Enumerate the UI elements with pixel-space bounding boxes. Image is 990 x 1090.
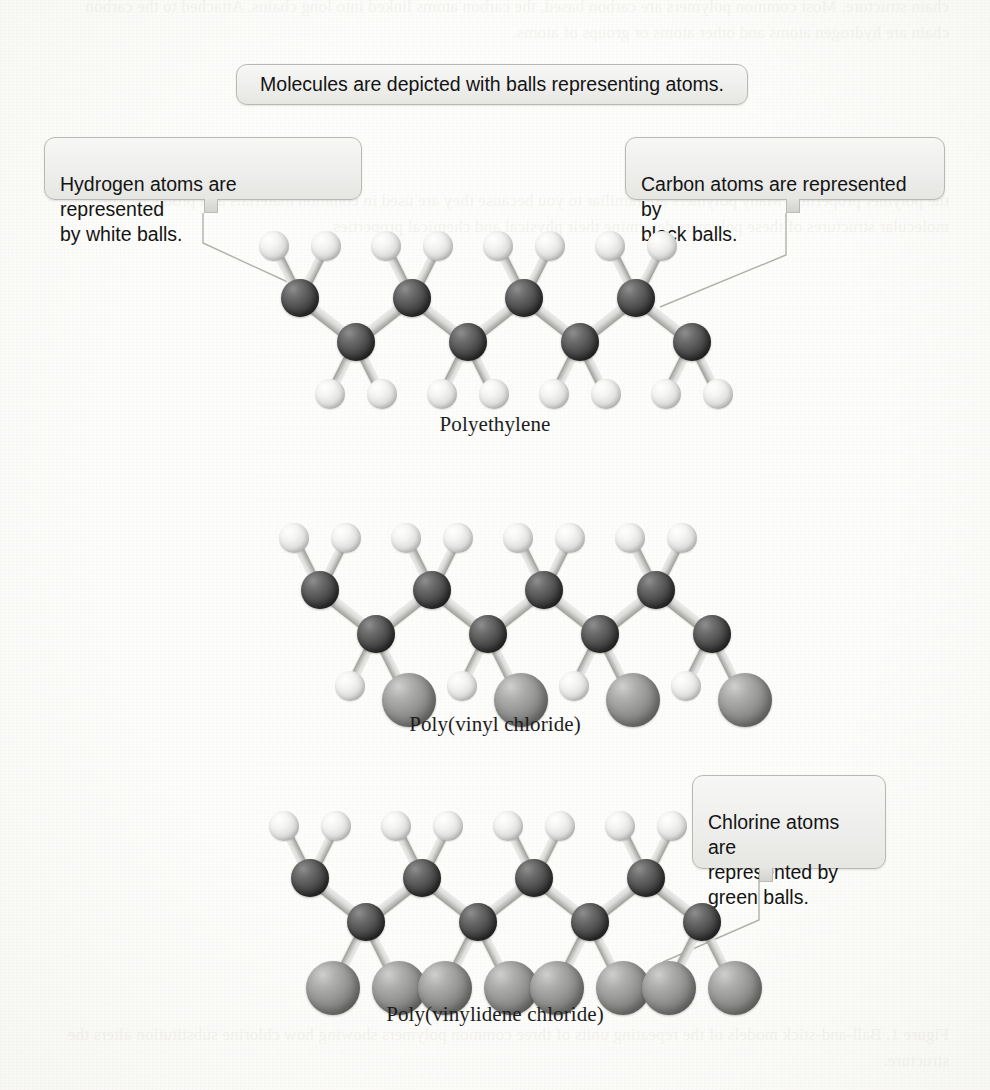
carbon-atom: [673, 323, 711, 361]
carbon-atom: [347, 903, 385, 941]
carbon-atom: [617, 279, 655, 317]
carbon-atom: [627, 859, 665, 897]
hydrogen-atom: [483, 231, 513, 261]
hydrogen-atom: [545, 811, 575, 841]
carbon-atom: [337, 323, 375, 361]
hydrogen-atom: [321, 811, 351, 841]
hydrogen-atom: [605, 811, 635, 841]
molecule-poly-vinylidene-chloride: [272, 818, 702, 1003]
callout-carbon: Carbon atoms are represented by black ba…: [625, 137, 945, 200]
figure-stage: Molecules are depicted with balls repres…: [0, 0, 990, 1090]
hydrogen-atom: [331, 523, 361, 553]
hydrogen-atom: [503, 523, 533, 553]
hydrogen-atom: [381, 811, 411, 841]
molecule-poly-vinyl-chloride: [282, 528, 702, 708]
callout-molecules: Molecules are depicted with balls repres…: [236, 64, 748, 105]
carbon-atom: [301, 571, 339, 609]
callout-tail-icon: [786, 199, 800, 213]
carbon-atom: [693, 615, 731, 653]
caption-poly-vinyl-chloride: Poly(vinyl chloride): [290, 712, 700, 737]
callout-hydrogen: Hydrogen atoms are represented by white …: [44, 137, 362, 200]
carbon-atom: [291, 859, 329, 897]
hydrogen-atom: [269, 811, 299, 841]
hydrogen-atom: [539, 379, 569, 409]
caption-poly-vinylidene-chloride: Poly(vinylidene chloride): [270, 1002, 720, 1027]
carbon-atom: [525, 571, 563, 609]
callout-tail-icon: [204, 199, 218, 213]
carbon-atom: [469, 615, 507, 653]
hydrogen-atom: [591, 379, 621, 409]
hydrogen-atom: [279, 523, 309, 553]
carbon-atom: [449, 323, 487, 361]
callout-tail-icon: [759, 868, 773, 882]
carbon-atom: [459, 903, 497, 941]
chlorine-atom: [718, 673, 772, 727]
carbon-atom: [505, 279, 543, 317]
caption-polyethylene: Polyethylene: [300, 412, 690, 437]
hydrogen-atom: [595, 231, 625, 261]
carbon-atom: [581, 615, 619, 653]
hydrogen-atom: [423, 231, 453, 261]
carbon-atom: [357, 615, 395, 653]
hydrogen-atom: [311, 231, 341, 261]
carbon-atom: [515, 859, 553, 897]
hydrogen-atom: [671, 671, 701, 701]
molecule-polyethylene: [262, 232, 732, 412]
hydrogen-atom: [667, 523, 697, 553]
hydrogen-atom: [555, 523, 585, 553]
carbon-atom: [403, 859, 441, 897]
hydrogen-atom: [433, 811, 463, 841]
hydrogen-atom: [259, 231, 289, 261]
hydrogen-atom: [535, 231, 565, 261]
hydrogen-atom: [559, 671, 589, 701]
hydrogen-atom: [703, 379, 733, 409]
hydrogen-atom: [615, 523, 645, 553]
hydrogen-atom: [493, 811, 523, 841]
carbon-atom: [571, 903, 609, 941]
hydrogen-atom: [371, 231, 401, 261]
carbon-atom: [393, 279, 431, 317]
carbon-atom: [561, 323, 599, 361]
hydrogen-atom: [427, 379, 457, 409]
hydrogen-atom: [447, 671, 477, 701]
hydrogen-atom: [443, 523, 473, 553]
hydrogen-atom: [315, 379, 345, 409]
carbon-atom: [683, 903, 721, 941]
hydrogen-atom: [657, 811, 687, 841]
hydrogen-atom: [367, 379, 397, 409]
hydrogen-atom: [479, 379, 509, 409]
callout-chlorine: Chlorine atoms are represented by green …: [692, 775, 886, 869]
carbon-atom: [413, 571, 451, 609]
carbon-atom: [637, 571, 675, 609]
carbon-atom: [281, 279, 319, 317]
hydrogen-atom: [651, 379, 681, 409]
hydrogen-atom: [335, 671, 365, 701]
hydrogen-atom: [391, 523, 421, 553]
callout-molecules-text: Molecules are depicted with balls repres…: [260, 72, 724, 97]
hydrogen-atom: [647, 231, 677, 261]
